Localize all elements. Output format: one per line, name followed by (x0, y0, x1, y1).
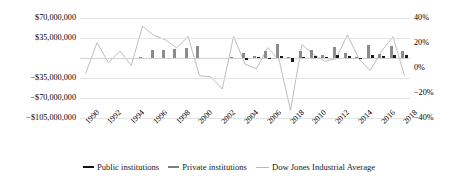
bar-private-2018 (401, 51, 404, 58)
y-axis-left-tick: $70,000,000 (0, 14, 76, 22)
bar-public-2010 (314, 56, 317, 58)
gridline (80, 98, 410, 99)
bar-private-1995 (139, 57, 142, 58)
gridline (80, 38, 410, 39)
legend-item-djia: Dow Jones Industrial Average (256, 162, 375, 172)
bar-private-2006 (264, 51, 267, 58)
gridline (80, 18, 410, 19)
legend-label-private: Private institutions (182, 162, 247, 172)
djia-line-swatch-icon (256, 167, 269, 168)
y-axis-left-tick: −$105,000,000 (0, 114, 76, 122)
gridline (80, 78, 410, 79)
bar-public-2005 (257, 57, 260, 58)
bar-private-2009 (299, 51, 302, 58)
bar-private-2000 (196, 46, 199, 58)
bar-public-2011 (325, 57, 328, 58)
bar-private-2014 (355, 57, 358, 58)
plot-area (80, 18, 410, 118)
y-axis-right-tick: 20% (414, 39, 458, 47)
bar-private-2013 (344, 53, 347, 58)
bar-private-1996 (151, 50, 154, 58)
bar-private-2011 (321, 55, 324, 58)
bar-private-2010 (310, 50, 313, 58)
bar-public-2004 (245, 58, 248, 60)
bar-public-2006 (268, 58, 271, 59)
y-axis-right-tick: 40% (414, 14, 458, 22)
bar-public-2008 (291, 58, 294, 62)
private-line-swatch-icon (168, 166, 179, 168)
public-line-swatch-icon (83, 166, 94, 169)
bar-public-2017 (393, 55, 396, 59)
bar-public-2018 (405, 55, 408, 58)
bar-private-2016 (378, 54, 381, 58)
bar-public-2012 (336, 55, 339, 58)
bar-public-2016 (382, 56, 385, 58)
bar-private-2012 (333, 47, 336, 58)
bar-public-2009 (302, 57, 305, 58)
bar-private-1998 (173, 49, 176, 58)
y-axis-right-tick: −20% (414, 89, 458, 97)
djia-line-layer (80, 18, 410, 118)
chart-legend: Public institutions Private institutions… (0, 162, 458, 172)
y-axis-left-tick: −$70,000,000 (0, 94, 76, 102)
bar-public-2007 (280, 56, 283, 58)
y-axis-right-tick: −40% (414, 114, 458, 122)
bar-public-2015 (371, 55, 374, 58)
bar-private-2004 (242, 53, 245, 58)
legend-label-public: Public institutions (97, 162, 159, 172)
legend-item-private: Private institutions (168, 162, 247, 172)
bar-private-1997 (162, 50, 165, 58)
bar-private-2015 (367, 45, 370, 58)
y-axis-right-tick: 0% (414, 64, 458, 72)
bar-private-2017 (390, 46, 393, 58)
y-axis-left-tick: −$35,000,000 (0, 74, 76, 82)
legend-item-public: Public institutions (83, 162, 159, 172)
x-axis-labels: 1990199219941996199820002002200420062018… (80, 120, 410, 160)
bar-public-2013 (348, 56, 351, 58)
y-axis-left-tick: $35,000,000 (0, 34, 76, 42)
bar-private-2007 (276, 44, 279, 58)
chart-container: $70,000,000 $35,000,000 −$35,000,000 −$7… (0, 0, 458, 185)
bar-private-2005 (253, 56, 256, 58)
bar-private-2003 (230, 57, 233, 58)
bar-public-2014 (359, 58, 362, 59)
bar-private-2008 (287, 57, 290, 58)
bar-private-1999 (185, 48, 188, 58)
legend-label-djia: Dow Jones Industrial Average (272, 162, 375, 172)
